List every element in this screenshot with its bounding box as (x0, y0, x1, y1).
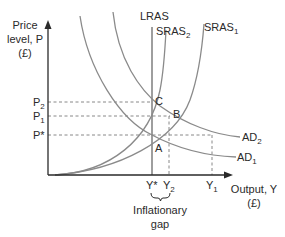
point-a-label: A (155, 142, 163, 154)
pstar-label: P* (33, 129, 45, 141)
y-axis-title-line1: Price (12, 19, 37, 31)
y-axis-title-line3: (£) (18, 47, 31, 59)
ad-as-diagram: Price level, P (£) P2 P1 P* LRAS SRAS2 S… (0, 0, 285, 237)
p2-label: P2 (33, 96, 45, 111)
y-axis-arrow-icon (45, 20, 52, 29)
x-axis-title-line2: (£) (247, 197, 260, 209)
gap-label-line2: gap (151, 218, 169, 230)
y-axis-title-line2: level, P (7, 33, 43, 45)
sras2-label: SRAS2 (156, 25, 191, 40)
p1-label: P1 (33, 110, 45, 125)
point-c-label: C (155, 95, 163, 107)
ad2-label: AD2 (242, 131, 262, 146)
y2-label: Y2 (163, 179, 175, 194)
x-axis-title-line1: Output, Y (231, 183, 278, 195)
ad1-curve (80, 16, 236, 157)
ad1-label: AD1 (237, 151, 257, 166)
y1-label: Y1 (206, 179, 218, 194)
sras1-curve (55, 24, 204, 175)
gap-brace-icon (151, 193, 170, 201)
lras-label: LRAS (140, 10, 169, 22)
sras1-label: SRAS1 (204, 21, 239, 36)
ystar-label: Y* (146, 179, 158, 191)
x-axis-arrow-icon (224, 172, 233, 179)
gap-label-line1: Inflationary (133, 204, 187, 216)
point-b-label: B (173, 108, 180, 120)
sras2-curve (55, 30, 166, 175)
